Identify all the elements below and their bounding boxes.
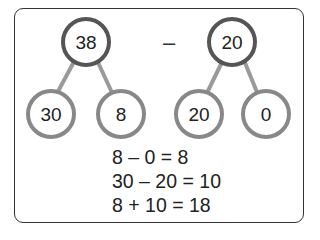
- equation-line: 8 – 0 = 8: [112, 146, 188, 168]
- svg-text:38: 38: [75, 32, 96, 53]
- node-tree2-right: 0: [243, 91, 289, 137]
- equation-line: 8 + 10 = 18: [112, 194, 211, 216]
- svg-text:30: 30: [40, 104, 61, 125]
- node-tree2-left: 20: [176, 91, 222, 137]
- svg-text:20: 20: [188, 104, 209, 125]
- svg-text:8: 8: [116, 104, 127, 125]
- svg-text:20: 20: [221, 32, 242, 53]
- operation-symbol: –: [163, 30, 175, 56]
- equation-line: 30 – 20 = 10: [112, 170, 221, 192]
- node-tree1-right: 8: [98, 91, 144, 137]
- node-tree1-left: 30: [28, 91, 74, 137]
- svg-text:0: 0: [261, 104, 272, 125]
- node-tree2-top: 20: [209, 19, 255, 65]
- node-tree1-top: 38: [63, 19, 109, 65]
